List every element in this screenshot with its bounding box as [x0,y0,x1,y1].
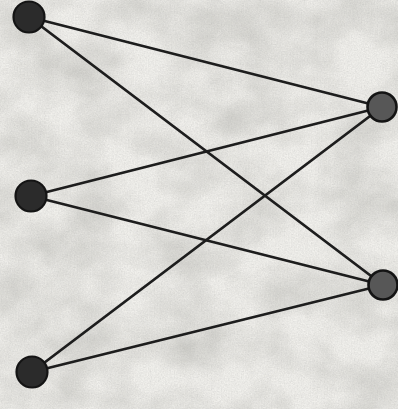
graph-node-left-L2 [16,181,47,212]
graph-node-left-L1 [14,2,45,33]
graph-node-right-R2 [369,271,398,300]
graph-svg [0,0,398,409]
graph-node-right-R1 [368,93,397,122]
graph-node-left-L3 [17,357,48,388]
bipartite-graph-figure [0,0,398,409]
